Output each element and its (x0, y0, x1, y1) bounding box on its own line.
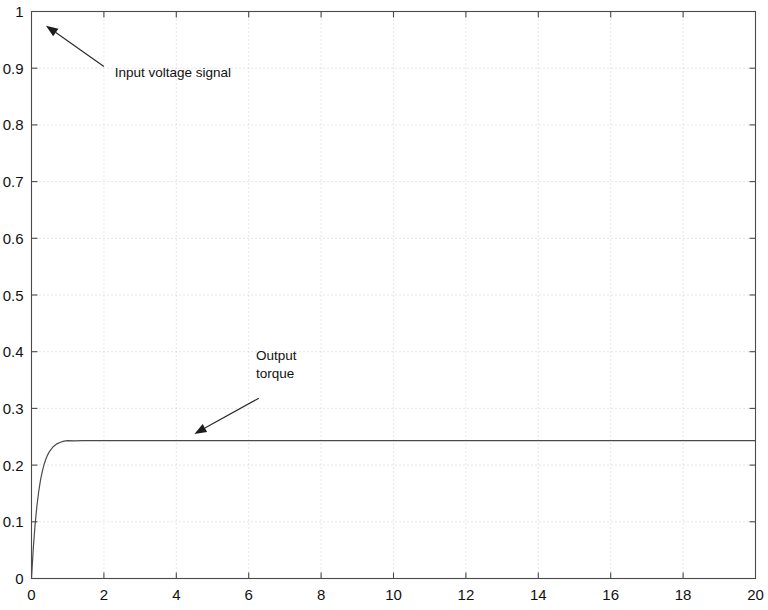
annotation-label-output-torque: Outputtorque (256, 348, 297, 381)
y-axis-tick-label: 0.6 (3, 230, 24, 247)
x-axis-tick-label: 10 (385, 586, 402, 603)
x-axis-tick-label: 14 (530, 586, 547, 603)
y-axis-tick-label: 0.8 (3, 116, 24, 133)
y-axis-tick-label: 0.7 (3, 173, 24, 190)
x-axis-tick-label: 16 (602, 586, 619, 603)
x-axis-tick-label: 8 (317, 586, 325, 603)
step-response-plot: 0246810121416182000.10.20.30.40.50.60.70… (0, 0, 768, 610)
data-curve-output-torque (32, 441, 756, 579)
y-axis-tick-label: 0.9 (3, 60, 24, 77)
annotation-arrow-head-input-voltage (46, 26, 58, 37)
annotation-leader-line-output-torque (205, 398, 259, 428)
y-axis-tick-label: 0.5 (3, 287, 24, 304)
x-axis-tick-label: 6 (245, 586, 253, 603)
x-axis-tick-label: 4 (172, 586, 180, 603)
chart-figure: 0246810121416182000.10.20.30.40.50.60.70… (0, 0, 768, 610)
annotation-leader-line-input-voltage (56, 33, 104, 67)
annotation-arrow-head-output-torque (194, 424, 207, 434)
y-axis-tick-label: 0.3 (3, 400, 24, 417)
y-axis-tick-label: 0.4 (3, 343, 24, 360)
y-axis-tick-label: 0 (15, 570, 23, 587)
x-axis-tick-label: 12 (458, 586, 475, 603)
y-axis-tick-label: 0.2 (3, 457, 24, 474)
x-axis-tick-label: 0 (27, 586, 35, 603)
y-axis-tick-label: 1 (15, 3, 23, 20)
x-axis-tick-label: 2 (100, 586, 108, 603)
y-axis-tick-label: 0.1 (3, 513, 24, 530)
x-axis-tick-label: 20 (747, 586, 764, 603)
x-axis-tick-label: 18 (675, 586, 692, 603)
annotation-label-input-voltage: Input voltage signal (115, 65, 231, 80)
